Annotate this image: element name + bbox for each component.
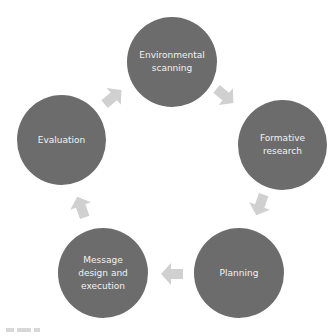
node-label: Formative research [255, 132, 311, 158]
arrow-right-up-icon [95, 79, 132, 116]
arrow-down-icon [243, 188, 276, 221]
node-planning: Planning [194, 228, 284, 318]
node-label: Message design and execution [74, 254, 132, 293]
arrow-right-down-icon [207, 78, 244, 115]
arrow-up-icon [64, 190, 97, 223]
cycle-diagram: Environmental scanning Formative researc… [0, 0, 331, 336]
node-label: Evaluation [38, 134, 86, 147]
node-evaluation: Evaluation [17, 95, 106, 185]
node-label: Environmental scanning [138, 49, 206, 75]
node-message-design-execution: Message design and execution [58, 228, 148, 318]
arrow-left-icon [159, 261, 185, 287]
node-formative-research: Formative research [238, 100, 327, 190]
node-environmental-scanning: Environmental scanning [127, 17, 217, 107]
cropped-caption-fragment [6, 328, 46, 336]
node-label: Planning [220, 267, 259, 280]
